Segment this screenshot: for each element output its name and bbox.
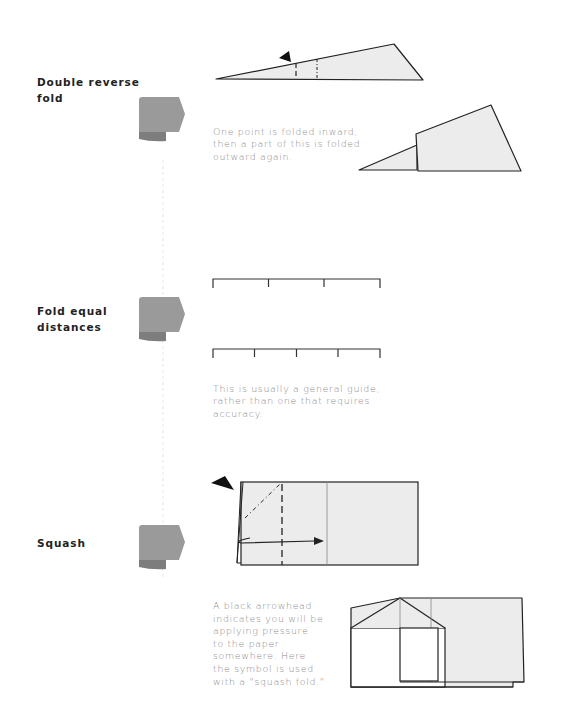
pressure-arrowhead-icon	[279, 51, 291, 62]
equal-distance-guide-quarters	[210, 340, 390, 370]
double-reverse-fold-diagram-before	[210, 40, 450, 110]
pressure-arrowhead-icon	[211, 476, 234, 490]
dotted-guide-line	[162, 160, 164, 580]
section-description: This is usually a general guide, rather …	[213, 383, 380, 420]
folded-tab-icon	[137, 96, 187, 142]
folded-tab-icon	[137, 296, 187, 342]
squash-fold-diagram-after	[350, 590, 530, 690]
section-title: Squash	[37, 535, 86, 551]
folded-tab-icon	[137, 524, 187, 570]
section-title: Fold equal distances	[37, 303, 108, 335]
section-title: Double reverse fold	[37, 74, 140, 106]
squash-fold-diagram-before	[210, 460, 440, 570]
section-description: One point is folded inward, then a part …	[213, 126, 360, 163]
section-description: A black arrowhead indicates you will be …	[213, 600, 325, 688]
double-reverse-fold-diagram-after	[355, 102, 535, 172]
